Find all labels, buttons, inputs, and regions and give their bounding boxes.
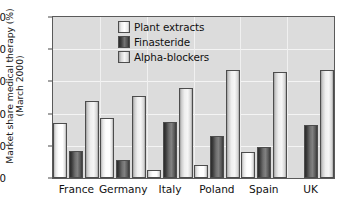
legend-item: Plant extracts (118, 20, 209, 33)
y-axis-tick-label: 80 (0, 44, 6, 55)
bar-italy-alpha-blockers (179, 88, 193, 178)
bar-chart-figure: Market share medical therapy (%) (March … (0, 0, 345, 219)
bar-france-plant-extracts (53, 123, 67, 178)
bar-italy-plant-extracts (147, 170, 161, 178)
legend-swatch-icon (118, 21, 130, 33)
legend-item-label: Finasteride (134, 36, 190, 48)
x-axis-tick-label-france: France (59, 183, 94, 195)
bar-germany-finasteride (116, 160, 130, 178)
gridline-vertical (287, 17, 288, 178)
y-axis-tick-label: 60 (0, 76, 6, 87)
x-axis-tick-label-italy: Italy (159, 183, 182, 195)
legend-item: Finasteride (118, 35, 209, 48)
x-axis-tick-label-germany: Germany (99, 183, 148, 195)
y-axis-label-line2: (March 2000) (15, 56, 25, 117)
bar-italy-finasteride (163, 122, 177, 178)
legend-item: Alpha-blockers (118, 50, 209, 63)
bar-uk-finasteride (304, 125, 318, 178)
bar-france-finasteride (69, 151, 83, 178)
bar-spain-alpha-blockers (273, 72, 287, 178)
x-axis-tick-label-poland: Poland (199, 183, 234, 195)
bar-germany-plant-extracts (100, 118, 114, 178)
legend-swatch-icon (118, 51, 130, 63)
bar-germany-alpha-blockers (132, 96, 146, 178)
x-axis-tick-label-uk: UK (303, 183, 318, 195)
legend-item-label: Alpha-blockers (134, 51, 209, 63)
chart-legend: Plant extractsFinasterideAlpha-blockers (118, 20, 209, 63)
bar-poland-plant-extracts (194, 165, 208, 178)
y-axis-tick-label: 40 (0, 108, 6, 119)
y-axis-tick-label: 100 (0, 12, 6, 23)
y-axis-tick-label: 20 (0, 140, 6, 151)
x-axis-tick-label-spain: Spain (249, 183, 279, 195)
bar-spain-finasteride (257, 147, 271, 178)
legend-item-label: Plant extracts (134, 21, 204, 33)
legend-swatch-icon (118, 36, 130, 48)
bar-uk-alpha-blockers (320, 70, 334, 178)
y-axis-tick-label: 0 (0, 173, 6, 184)
bar-poland-alpha-blockers (226, 70, 240, 178)
bar-france-alpha-blockers (85, 101, 99, 178)
bar-poland-finasteride (210, 136, 224, 178)
bar-spain-plant-extracts (241, 152, 255, 178)
